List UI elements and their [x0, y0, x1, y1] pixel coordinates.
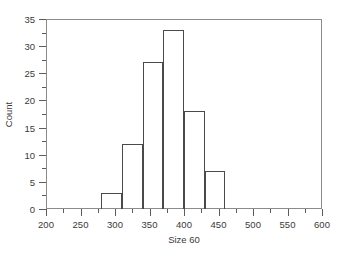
x-axis-ticks: 200250300350400450500550600: [46, 209, 322, 219]
x-tick-label: 400: [176, 219, 192, 230]
x-tick-label: 450: [211, 219, 227, 230]
y-tick-label: 15: [24, 122, 35, 133]
x-tick-label: 200: [38, 219, 54, 230]
x-tick-label: 250: [73, 219, 89, 230]
x-tick-minor: [305, 209, 306, 213]
y-tick-label: 20: [24, 95, 35, 106]
x-tick-major: [288, 209, 289, 216]
histogram-bar: [143, 62, 164, 209]
histogram-chart: 200250300350400450500550600 051015202530…: [0, 0, 344, 258]
y-tick-label: 25: [24, 68, 35, 79]
histogram-bar: [184, 111, 205, 209]
y-axis-title-text: Count: [4, 101, 15, 126]
x-tick-major: [253, 209, 254, 216]
x-tick-major: [46, 209, 47, 216]
x-tick-minor: [63, 209, 64, 213]
x-axis-title: Size 60: [46, 234, 322, 245]
x-tick-major: [322, 209, 323, 216]
y-tick-label: 35: [24, 14, 35, 25]
y-axis-title: Count: [2, 19, 16, 209]
y-tick-major: [39, 209, 46, 210]
x-tick-major: [115, 209, 116, 216]
histogram-bar: [163, 30, 184, 209]
y-tick-label: 30: [24, 41, 35, 52]
y-tick-label: 0: [30, 204, 35, 215]
x-tick-minor: [98, 209, 99, 213]
x-tick-label: 300: [107, 219, 123, 230]
x-tick-major: [150, 209, 151, 216]
histogram-bar: [205, 171, 226, 209]
histogram-bar: [122, 144, 143, 209]
x-tick-label: 350: [142, 219, 158, 230]
x-tick-major: [81, 209, 82, 216]
histogram-bar: [101, 193, 122, 209]
y-tick-label: 10: [24, 149, 35, 160]
x-tick-minor: [201, 209, 202, 213]
bars-layer: [46, 19, 322, 209]
x-tick-minor: [167, 209, 168, 213]
x-tick-minor: [132, 209, 133, 213]
x-tick-major: [219, 209, 220, 216]
x-tick-minor: [270, 209, 271, 213]
x-tick-major: [184, 209, 185, 216]
x-tick-label: 600: [314, 219, 330, 230]
y-tick-label: 5: [30, 176, 35, 187]
x-tick-label: 550: [280, 219, 296, 230]
x-tick-label: 500: [245, 219, 261, 230]
x-tick-minor: [236, 209, 237, 213]
